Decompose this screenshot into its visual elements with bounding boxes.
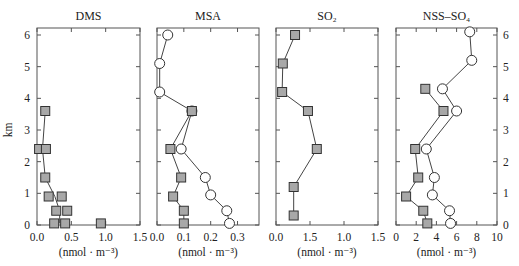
- square-marker: [52, 206, 61, 215]
- circle-marker: [155, 87, 165, 97]
- square-marker: [179, 206, 188, 215]
- x-tick-label: 6: [454, 231, 460, 243]
- right-y-axis: 0123456: [503, 29, 509, 231]
- square-marker: [423, 219, 432, 228]
- panel-title: DMS: [75, 9, 101, 23]
- square-marker: [419, 206, 428, 215]
- square-marker: [50, 219, 59, 228]
- square-marker: [41, 107, 50, 116]
- x-tick-label: 10: [491, 231, 503, 243]
- square-marker: [402, 192, 411, 201]
- x-tick-label: 2: [413, 231, 419, 243]
- left-y-axis: 0123456km: [2, 29, 30, 231]
- circle-marker: [206, 190, 216, 200]
- circle-marker: [446, 218, 456, 228]
- square-marker: [41, 173, 50, 182]
- y-tick-label: 2: [24, 156, 30, 168]
- panel-title: SO₂: [317, 9, 337, 23]
- y-tick-label-right: 3: [503, 124, 509, 136]
- circle-marker: [429, 173, 439, 183]
- x-tick-label: 0: [393, 231, 399, 243]
- circle-marker: [224, 218, 234, 228]
- circle-marker: [452, 106, 462, 116]
- x-axis-unit-label: (nmol · m⁻³): [59, 246, 119, 259]
- square-marker: [41, 145, 50, 154]
- series-line: [406, 89, 443, 224]
- y-tick-label-right: 1: [503, 187, 509, 199]
- x-tick-label: 1.5: [303, 231, 318, 243]
- y-tick-label-right: 6: [503, 29, 509, 41]
- square-marker: [177, 173, 186, 182]
- panel-title: NSS–SO₄: [423, 9, 471, 23]
- panel-1: MSA0.00.10.20.3(nmol · m⁻³): [150, 9, 259, 259]
- vertical-profiles-chart: DMS0.00.51.01.5(nmol · m⁻³)MSA0.00.10.20…: [0, 0, 519, 266]
- circle-marker: [176, 144, 186, 154]
- y-tick-label: 3: [24, 124, 30, 136]
- square-marker: [57, 192, 66, 201]
- square-marker: [289, 211, 298, 220]
- circle-marker: [427, 190, 437, 200]
- y-tick-label: 4: [24, 92, 30, 104]
- y-tick-label-right: 5: [503, 61, 509, 73]
- square-marker: [179, 219, 188, 228]
- square-marker: [96, 219, 105, 228]
- square-marker: [439, 107, 448, 116]
- circle-marker: [163, 30, 173, 40]
- circle-marker: [465, 27, 475, 37]
- x-tick-label: 0.0: [150, 231, 165, 243]
- panel-0: DMS0.00.51.01.5(nmol · m⁻³): [30, 9, 148, 259]
- y-tick-label: 5: [24, 61, 30, 73]
- y-tick-label-right: 4: [503, 92, 509, 104]
- circle-marker: [421, 144, 431, 154]
- square-marker: [414, 173, 423, 182]
- x-axis-unit-label: (nmol · m⁻³): [297, 246, 357, 259]
- x-tick-label: 0.3: [230, 231, 245, 243]
- x-tick-label: 0.0: [30, 231, 45, 243]
- square-marker: [169, 192, 178, 201]
- y-axis-label: km: [2, 123, 14, 138]
- circle-marker: [437, 84, 447, 94]
- square-marker: [61, 219, 70, 228]
- x-tick-label: 0.2: [203, 231, 218, 243]
- circle-marker: [155, 59, 165, 69]
- square-marker: [63, 206, 72, 215]
- x-tick-label: 0.0: [269, 231, 284, 243]
- x-tick-label: 4: [434, 231, 440, 243]
- x-tick-label: 1.0: [337, 231, 352, 243]
- square-marker: [291, 31, 300, 40]
- plot-frame: [396, 28, 497, 225]
- square-marker: [289, 183, 298, 192]
- x-tick-label: 8: [474, 231, 480, 243]
- circle-marker: [445, 206, 455, 216]
- plot-frame: [276, 28, 378, 225]
- panel-title: MSA: [195, 9, 221, 23]
- square-marker: [278, 88, 287, 97]
- x-axis-unit-label: (nmol · m⁻³): [417, 246, 477, 259]
- square-marker: [187, 107, 196, 116]
- y-tick-label: 6: [24, 29, 30, 41]
- x-tick-label: 0.5: [64, 231, 79, 243]
- y-tick-label-right: 0: [503, 219, 509, 231]
- square-marker: [312, 145, 321, 154]
- x-tick-label: 1.0: [98, 231, 113, 243]
- x-tick-label: 1.5: [133, 231, 148, 243]
- circle-marker: [467, 55, 477, 65]
- x-tick-label: 1.5: [371, 231, 386, 243]
- circle-marker: [222, 206, 232, 216]
- square-marker: [166, 145, 175, 154]
- square-marker: [303, 107, 312, 116]
- y-tick-label: 0: [24, 219, 30, 231]
- x-axis-unit-label: (nmol · m⁻³): [178, 246, 238, 259]
- square-marker: [278, 59, 287, 68]
- panel-2: SO₂0.01.51.01.5(nmol · m⁻³): [269, 9, 386, 259]
- square-marker: [44, 192, 53, 201]
- panel-3: NSS–SO₄0246810(nmol · m⁻³): [393, 9, 503, 259]
- y-tick-label-right: 2: [503, 156, 509, 168]
- square-marker: [411, 145, 420, 154]
- y-tick-label: 1: [24, 187, 30, 199]
- x-tick-label: 0.1: [177, 231, 192, 243]
- square-marker: [421, 84, 430, 93]
- circle-marker: [200, 173, 210, 183]
